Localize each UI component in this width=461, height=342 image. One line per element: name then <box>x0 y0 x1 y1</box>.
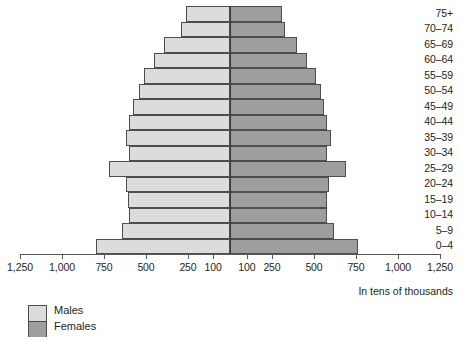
axis-tick <box>440 254 441 259</box>
age-group-label: 40–44 <box>424 115 453 127</box>
axis-tick-label: 1,000 <box>385 261 411 273</box>
legend-swatch-box <box>28 305 47 337</box>
bar-male <box>126 130 230 146</box>
bar-male <box>164 37 230 53</box>
axis-tick-label: 500 <box>305 261 322 273</box>
bar-male <box>181 22 230 38</box>
age-group-label: 75+ <box>435 7 453 19</box>
age-group-label: 25–29 <box>424 162 453 174</box>
bar-male <box>186 6 230 22</box>
bar-male <box>154 53 230 69</box>
axis-tick-label: 100 <box>205 261 222 273</box>
legend-swatch-males <box>29 306 46 321</box>
bar-female <box>230 130 331 146</box>
age-group-label: 50–54 <box>424 84 453 96</box>
bar-male <box>122 223 230 239</box>
age-group-label: 65–69 <box>424 38 453 50</box>
plot-area <box>20 6 440 254</box>
legend-swatch-females <box>29 321 46 337</box>
age-group-label: 35–39 <box>424 131 453 143</box>
bar-male <box>109 161 230 177</box>
axis-tick <box>146 254 147 259</box>
bar-male <box>128 192 230 208</box>
bar-female <box>230 53 307 69</box>
bar-male <box>126 177 230 193</box>
axis-tick-label: 750 <box>95 261 112 273</box>
age-group-label: 15–19 <box>424 193 453 205</box>
axis-tick-label: 1,250 <box>427 261 453 273</box>
bar-female <box>230 99 324 115</box>
bar-female <box>230 161 346 177</box>
x-axis-line <box>20 254 440 255</box>
axis-tick-label: 1,000 <box>49 261 75 273</box>
age-group-label: 70–74 <box>424 22 453 34</box>
axis-tick <box>272 254 273 259</box>
bar-female <box>230 223 334 239</box>
axis-tick-label: 100 <box>238 261 255 273</box>
axis-tick <box>62 254 63 259</box>
bar-female <box>230 177 329 193</box>
bar-male <box>139 84 230 100</box>
bar-female <box>230 37 297 53</box>
bar-male <box>129 208 230 224</box>
bar-male <box>144 68 230 84</box>
age-group-label: 0–4 <box>436 239 453 251</box>
axis-tick <box>247 254 248 259</box>
axis-tick-label: 750 <box>347 261 364 273</box>
bar-male <box>129 115 230 131</box>
age-group-label: 10–14 <box>424 208 453 220</box>
axis-tick-label: 1,250 <box>7 261 33 273</box>
axis-tick <box>398 254 399 259</box>
bar-male <box>96 239 230 255</box>
axis-tick-label: 250 <box>263 261 280 273</box>
axis-tick <box>314 254 315 259</box>
age-group-label: 45–49 <box>424 100 453 112</box>
center-axis-line <box>230 6 231 254</box>
axis-tick-label: 500 <box>137 261 154 273</box>
bar-female <box>230 6 282 22</box>
units-note: In tens of thousands <box>358 285 453 297</box>
bar-female <box>230 115 327 131</box>
population-pyramid-chart: 1,2501,0007505002501001002505007501,0001… <box>0 0 461 342</box>
bar-female <box>230 146 327 162</box>
axis-tick <box>213 254 214 259</box>
legend-label-males: Males <box>54 304 83 316</box>
bar-female <box>230 68 316 84</box>
age-group-label: 30–34 <box>424 146 453 158</box>
axis-tick <box>20 254 21 259</box>
bar-female <box>230 84 321 100</box>
age-group-label: 20–24 <box>424 177 453 189</box>
bar-male <box>129 146 230 162</box>
axis-tick-label: 250 <box>179 261 196 273</box>
bar-female <box>230 192 327 208</box>
age-group-label: 60–64 <box>424 53 453 65</box>
bar-female <box>230 208 327 224</box>
bar-female <box>230 239 358 255</box>
axis-tick <box>188 254 189 259</box>
axis-tick <box>356 254 357 259</box>
age-group-label: 5–9 <box>436 224 453 236</box>
bar-female <box>230 22 285 38</box>
bar-male <box>133 99 230 115</box>
axis-tick <box>104 254 105 259</box>
age-group-label: 55–59 <box>424 69 453 81</box>
legend-label-females: Females <box>54 320 96 332</box>
